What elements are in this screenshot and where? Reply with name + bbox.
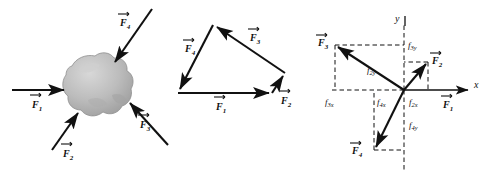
f1-label: F1 (31, 99, 42, 113)
force-vector-f1: F1 (12, 90, 64, 113)
component-vector-f2: F2 (404, 51, 443, 90)
rock-diagram-svg: F1 F2 F3 (0, 0, 168, 178)
f3-label: F3 (249, 32, 261, 46)
f4x-label: f4x (377, 97, 386, 108)
f2-label: F2 (62, 148, 74, 162)
component-vector-f3: F3 (316, 33, 404, 90)
force-vector-f4: F4 (115, 9, 152, 62)
f4-label: F4 (184, 43, 196, 57)
f2-label: F2 (280, 95, 292, 109)
f1-label: F1 (442, 99, 453, 113)
x-axis-label: x (473, 79, 479, 90)
f4-label: F4 (119, 17, 131, 31)
force-vector-f3: F3 (130, 103, 168, 145)
f3-label: F3 (139, 119, 151, 133)
f3-label: F3 (317, 37, 329, 51)
polygon-vector-f1: F1 (178, 93, 269, 115)
force-vector-f2: F2 (52, 113, 78, 162)
f3x-label: f3x (325, 97, 334, 108)
panel-free-body-rock: F1 F2 F3 (0, 0, 168, 178)
rock-object (63, 53, 133, 116)
f1-label: F1 (215, 101, 226, 115)
physics-figure: F1 F2 F3 (0, 0, 488, 178)
f2y-label: f2y (367, 65, 376, 76)
f4-label: F4 (351, 145, 363, 159)
components-diagram-svg: x y F1 (304, 0, 488, 178)
polygon-vector-f3: F3 (217, 27, 285, 73)
f2-label: F2 (431, 55, 443, 69)
f2x-label: f2x (409, 97, 418, 108)
polygon-vector-f2: F2 (272, 76, 292, 109)
polygon-diagram-svg: F1 F2 F3 (168, 0, 304, 178)
y-axis-label: y (394, 13, 400, 24)
f3y-label: f3y (408, 40, 417, 51)
panel-component-axes: x y F1 (304, 0, 488, 178)
component-vector-f1: F1 (441, 94, 453, 112)
f4y-label: f4y (409, 120, 418, 131)
polygon-vector-f4: F4 (180, 25, 213, 89)
panel-vector-polygon: F1 F2 F3 (168, 0, 304, 178)
